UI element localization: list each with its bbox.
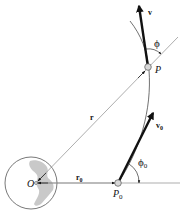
label-r: r bbox=[90, 113, 94, 122]
velocity-vector-v bbox=[139, 6, 148, 67]
label-r0: r0 bbox=[76, 173, 83, 183]
origin-point bbox=[35, 182, 38, 185]
r-arrow-at-p bbox=[138, 71, 145, 78]
point-p0 bbox=[115, 180, 122, 187]
label-o: O bbox=[27, 178, 34, 189]
label-phi: ϕ bbox=[154, 37, 160, 49]
radial-line-r bbox=[36, 37, 178, 183]
label-p: P bbox=[154, 64, 161, 75]
angle-arc-phi bbox=[146, 49, 161, 54]
velocity-vector-v0 bbox=[118, 113, 153, 183]
orbit-diagram: v ϕ P r v0 ϕ0 O r0 P0 bbox=[0, 0, 180, 218]
label-v0: v0 bbox=[156, 121, 163, 131]
label-v: v bbox=[148, 8, 152, 17]
point-p bbox=[145, 64, 152, 71]
label-phi0: ϕ0 bbox=[138, 156, 148, 170]
label-p0: P0 bbox=[112, 188, 123, 201]
